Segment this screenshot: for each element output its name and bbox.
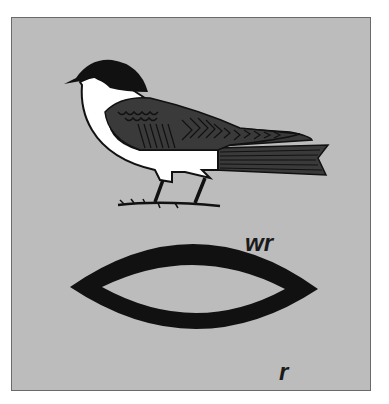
mouth-glyph [70,244,318,329]
transliteration-r-label: r [279,360,288,384]
hieroglyph-art [0,0,389,404]
transliteration-wr-label: wr [245,231,273,255]
swallow-glyph [64,60,328,208]
